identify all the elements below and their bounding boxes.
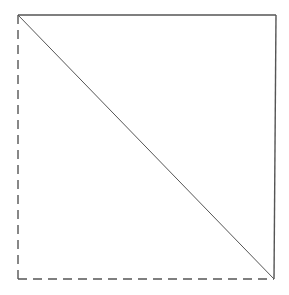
right-edge [274, 15, 276, 279]
diagonal [18, 15, 274, 279]
diagram-edges [18, 15, 276, 279]
diagram-canvas [0, 0, 289, 295]
